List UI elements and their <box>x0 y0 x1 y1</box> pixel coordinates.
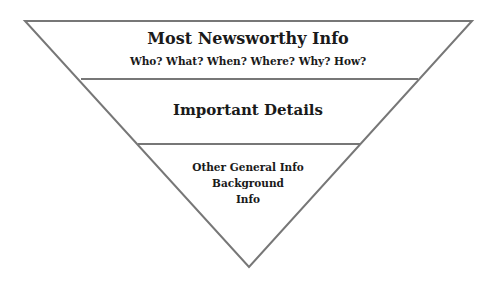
tier-1-subheading: Who? What? When? Where? Why? How? <box>0 55 496 67</box>
tier-1-heading: Most Newsworthy Info <box>0 29 496 48</box>
tier-3-line-2: Background <box>0 175 496 191</box>
tier-3-line-3: Info <box>0 191 496 207</box>
tier-3-text: Other General Info Background Info <box>0 159 496 207</box>
tier-3-line-1: Other General Info <box>0 159 496 175</box>
tier-2-heading: Important Details <box>0 101 496 119</box>
